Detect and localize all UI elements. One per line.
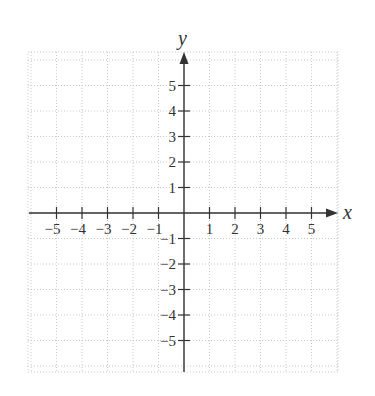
y-axis-label: y bbox=[176, 27, 187, 50]
y-tick-label: 2 bbox=[169, 154, 177, 170]
y-axis-arrow-icon bbox=[180, 52, 189, 64]
x-tick-label: −2 bbox=[121, 221, 137, 237]
x-axis-label: x bbox=[342, 201, 352, 223]
grid-lines bbox=[28, 52, 338, 372]
grid-border bbox=[28, 52, 338, 372]
y-tick-label: 4 bbox=[169, 103, 177, 119]
coordinate-plane: −5−4−3−2−112345−5−4−3−2−112345 x y bbox=[0, 0, 375, 396]
x-tick-label: −4 bbox=[70, 221, 86, 237]
y-tick-label: 5 bbox=[169, 78, 177, 94]
y-tick-label: −1 bbox=[160, 231, 176, 247]
x-tick-label: −3 bbox=[96, 221, 112, 237]
y-tick-label: −2 bbox=[160, 256, 176, 272]
x-tick-label: 5 bbox=[308, 221, 316, 237]
cartesian-grid-chart: −5−4−3−2−112345−5−4−3−2−112345 x y bbox=[0, 0, 375, 396]
y-tick-label: 3 bbox=[169, 129, 177, 145]
x-tick-label: −5 bbox=[45, 221, 61, 237]
x-tick-label: 4 bbox=[282, 221, 290, 237]
axes bbox=[29, 52, 338, 372]
x-axis-arrow-icon bbox=[326, 209, 338, 218]
y-tick-label: −4 bbox=[160, 307, 176, 323]
y-tick-label: 1 bbox=[169, 180, 177, 196]
y-tick-label: −3 bbox=[160, 282, 176, 298]
x-tick-label: 1 bbox=[206, 221, 214, 237]
y-tick-label: −5 bbox=[160, 333, 176, 349]
x-tick-label: 2 bbox=[231, 221, 239, 237]
x-tick-label: 3 bbox=[257, 221, 265, 237]
